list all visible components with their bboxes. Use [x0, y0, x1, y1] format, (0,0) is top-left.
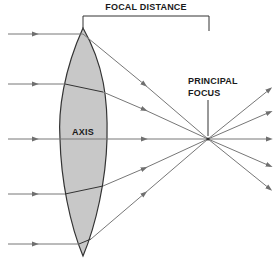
- axis-label: AXIS: [72, 127, 94, 137]
- focus-label: FOCUS: [188, 88, 221, 98]
- ray-1: [8, 34, 270, 189]
- ray-4: [8, 112, 270, 194]
- principal-label: PRINCIPAL: [188, 76, 238, 86]
- ray-2: [8, 84, 270, 166]
- principal-focus-point: [206, 137, 209, 140]
- focal-distance-label: FOCAL DISTANCE: [105, 2, 186, 12]
- ray-5: [8, 89, 270, 244]
- diagram-canvas: FOCAL DISTANCE PRINCIPAL FOCUS AXIS: [0, 0, 274, 262]
- light-rays: [8, 34, 270, 244]
- convex-lens: [60, 28, 108, 256]
- lens-diagram: FOCAL DISTANCE PRINCIPAL FOCUS AXIS: [0, 0, 274, 262]
- focal-distance-bracket: [83, 16, 209, 31]
